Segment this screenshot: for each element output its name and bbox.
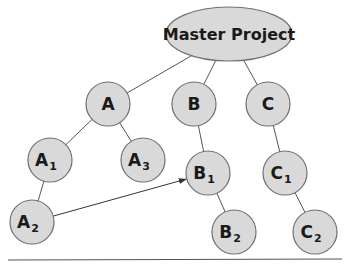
- node-a2: A2: [10, 200, 54, 244]
- node-label: B: [188, 94, 201, 114]
- project-tree-diagram: Master Project ABCA1A3B1C1A2B2C2: [0, 0, 351, 264]
- root-node-master-project: Master Project: [163, 7, 296, 61]
- root-label: Master Project: [163, 25, 296, 44]
- node-a: A: [86, 82, 130, 126]
- node-b: B: [172, 82, 216, 126]
- baseline-divider: [8, 259, 342, 260]
- arrow-a2-to-b1: [53, 179, 186, 216]
- tree-nodes: ABCA1A3B1C1A2B2C2: [10, 82, 337, 254]
- node-a1: A1: [28, 138, 72, 182]
- node-a3: A3: [121, 138, 165, 182]
- node-c2: C2: [293, 210, 337, 254]
- node-b2: B2: [212, 210, 256, 254]
- tree-edges: [32, 34, 315, 232]
- node-c: C: [246, 82, 290, 126]
- dependency-arrows: [53, 179, 186, 216]
- node-label: A: [101, 94, 115, 114]
- node-c1: C1: [263, 151, 307, 195]
- node-b1: B1: [186, 151, 230, 195]
- node-label: C: [262, 94, 274, 114]
